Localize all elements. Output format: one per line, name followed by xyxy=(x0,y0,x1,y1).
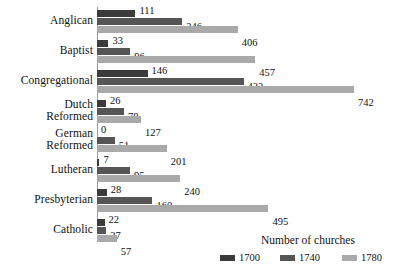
category-label: Presbyterian xyxy=(0,194,93,206)
bar-row: 240 xyxy=(97,175,398,182)
bar-row: 7 xyxy=(97,159,398,166)
legend-items: 170017401780 xyxy=(218,252,398,266)
category-label: GermanReformed xyxy=(0,128,93,151)
category-label-line: Reformed xyxy=(0,140,93,152)
category-label-line: Baptist xyxy=(60,44,93,56)
category-label: Congregational xyxy=(0,75,93,87)
bar-row: 78 xyxy=(97,108,398,115)
plot-area: 1112464063396457146423742267812705120179… xyxy=(97,7,398,234)
bar-1740 xyxy=(97,167,130,174)
value-label: 22 xyxy=(109,215,120,226)
legend-item-1780[interactable]: 1780 xyxy=(342,252,382,264)
bar-1700 xyxy=(97,189,107,196)
legend-swatch-icon xyxy=(342,255,357,262)
bar-row: 406 xyxy=(97,26,398,33)
bar-1740 xyxy=(97,18,182,25)
category-label-line: Presbyterian xyxy=(34,193,93,205)
value-label: 111 xyxy=(139,6,154,17)
legend-swatch-icon xyxy=(280,255,295,262)
bar-row: 201 xyxy=(97,145,398,152)
category-label: Anglican xyxy=(0,15,93,27)
bar-group: 795240 xyxy=(97,159,398,182)
bar-1780 xyxy=(97,175,180,182)
bar-1700 xyxy=(97,40,108,47)
bar-1780 xyxy=(97,145,167,152)
bar-1780 xyxy=(97,116,141,123)
bar-row: 127 xyxy=(97,116,398,123)
bar-row: 27 xyxy=(97,227,398,234)
bar-group: 146423742 xyxy=(97,70,398,93)
category-label: DutchReformed xyxy=(0,99,93,122)
bar-1740 xyxy=(97,197,152,204)
category-axis-labels: AnglicanBaptistCongregationalDutchReform… xyxy=(0,0,93,234)
bar-row: 246 xyxy=(97,18,398,25)
value-label: 7 xyxy=(103,155,108,166)
value-label: 57 xyxy=(121,247,132,258)
bar-row: 495 xyxy=(97,205,398,212)
bar-group: 28160495 xyxy=(97,189,398,212)
bar-1700 xyxy=(97,100,106,107)
bar-row: 26 xyxy=(97,100,398,107)
bar-row: 51 xyxy=(97,137,398,144)
legend-item-1740[interactable]: 1740 xyxy=(280,252,320,264)
category-label-line: Reformed xyxy=(0,111,93,123)
bar-row: 160 xyxy=(97,197,398,204)
bar-chart: AnglicanBaptistCongregationalDutchReform… xyxy=(0,0,398,274)
legend-item-1700[interactable]: 1700 xyxy=(220,252,260,264)
bar-1700 xyxy=(97,70,148,77)
bar-row: 28 xyxy=(97,189,398,196)
bar-1740 xyxy=(97,137,115,144)
bar-1780 xyxy=(97,26,238,33)
bar-row: 22 xyxy=(97,219,398,226)
legend-label: 1780 xyxy=(361,253,382,264)
category-label-line: Dutch xyxy=(64,98,93,110)
bar-row: 95 xyxy=(97,167,398,174)
bar-row: 742 xyxy=(97,86,398,93)
bar-1780 xyxy=(97,56,255,63)
bar-1780 xyxy=(97,235,117,242)
bar-group: 3396457 xyxy=(97,40,398,63)
legend-title: Number of churches xyxy=(218,234,398,246)
legend: Number of churches 170017401780 xyxy=(218,234,398,270)
bar-1740 xyxy=(97,78,244,85)
category-label-line: Congregational xyxy=(21,74,93,86)
legend-label: 1740 xyxy=(299,253,320,264)
bar-row: 33 xyxy=(97,40,398,47)
category-label-line: German xyxy=(55,127,93,139)
bar-1780 xyxy=(97,205,268,212)
value-label: 28 xyxy=(111,185,122,196)
category-label: Catholic xyxy=(0,224,93,236)
bar-row: 111 xyxy=(97,10,398,17)
bar-1740 xyxy=(97,227,106,234)
bar-row: 457 xyxy=(97,56,398,63)
category-label-line: Catholic xyxy=(53,223,93,235)
bar-1700 xyxy=(97,219,105,226)
value-label: 33 xyxy=(112,36,123,47)
legend-label: 1700 xyxy=(239,253,260,264)
bar-row: 0 xyxy=(97,129,398,136)
bar-row: 146 xyxy=(97,70,398,77)
category-label-line: Lutheran xyxy=(51,163,93,175)
bar-row: 96 xyxy=(97,48,398,55)
bar-row: 423 xyxy=(97,78,398,85)
legend-swatch-icon xyxy=(220,255,235,262)
category-label-line: Anglican xyxy=(50,14,93,26)
value-label: 26 xyxy=(110,96,121,107)
value-label: 146 xyxy=(152,66,168,77)
value-label: 0 xyxy=(101,125,106,136)
category-label: Lutheran xyxy=(0,164,93,176)
bar-group: 111246406 xyxy=(97,10,398,33)
bar-1700 xyxy=(97,159,99,166)
bar-1740 xyxy=(97,108,124,115)
bar-1700 xyxy=(97,10,135,17)
category-label: Baptist xyxy=(0,45,93,57)
bar-1780 xyxy=(97,86,354,93)
bar-group: 2678127 xyxy=(97,100,398,123)
bar-1740 xyxy=(97,48,130,55)
bar-group: 051201 xyxy=(97,129,398,152)
